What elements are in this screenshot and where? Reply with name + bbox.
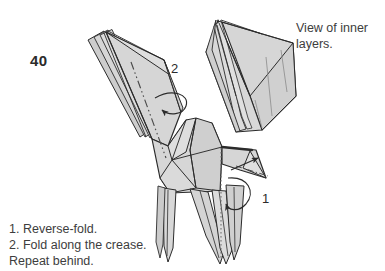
inset-caption-line-1: View of inner [296, 21, 368, 35]
callout-label-1: 1 [262, 191, 269, 206]
tail-flap-layered [88, 30, 183, 147]
instruction-line-3: Repeat behind. [9, 254, 94, 268]
step-number: 40 [30, 52, 47, 69]
leg-front-left-back-layer [156, 186, 165, 258]
inset-inner-layers-figure [206, 20, 296, 132]
inset-caption: View of innerlayers. [296, 20, 368, 52]
instruction-line-2: 2. Fold along the crease. [9, 238, 147, 252]
instruction-text-block: 1. Reverse-fold.2. Fold along the crease… [9, 221, 147, 269]
inset-caption-line-2: layers. [296, 37, 333, 51]
instruction-line-1: 1. Reverse-fold. [9, 222, 97, 236]
callout-label-2: 2 [171, 61, 178, 76]
origami-diagram-page: 40 View of innerlayers. 1 2 1. Reverse-f… [0, 0, 385, 271]
